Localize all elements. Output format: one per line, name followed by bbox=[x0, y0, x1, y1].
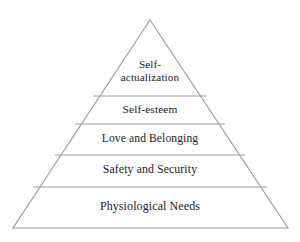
pyramid-diagram-canvas: Self- actualization Self-esteem Love and… bbox=[0, 0, 300, 242]
tier-label-physiological-needs: Physiological Needs bbox=[0, 200, 300, 213]
tier-label-self-esteem: Self-esteem bbox=[0, 103, 300, 116]
tier-label-self-actualization: Self- actualization bbox=[0, 58, 300, 83]
tier-label-safety-and-security: Safety and Security bbox=[0, 163, 300, 176]
tier-label-love-and-belonging: Love and Belonging bbox=[0, 132, 300, 145]
